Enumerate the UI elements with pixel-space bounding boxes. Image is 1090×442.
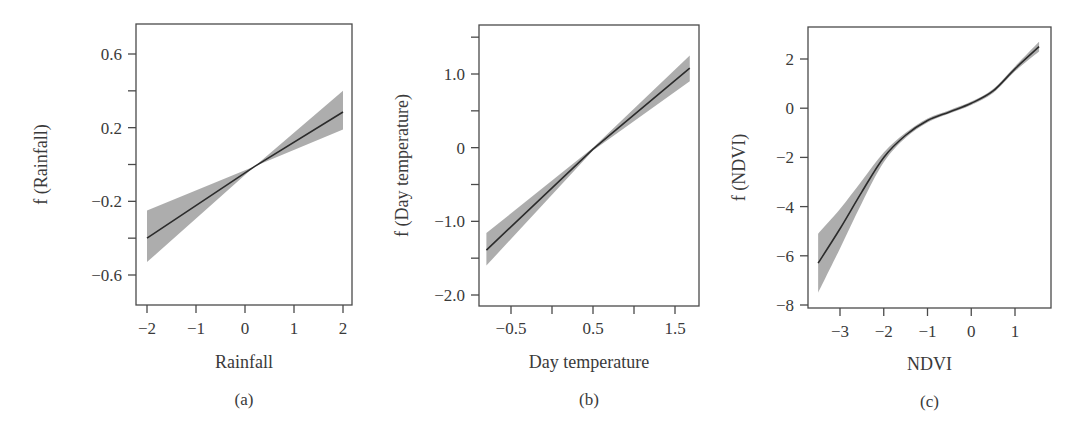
- panel-day-temperature: −0.50.51.5−2.0−1.001.0Day temperaturef (…: [392, 25, 699, 409]
- y-tick-label: −2.0: [434, 286, 465, 305]
- y-tick-label: 2: [786, 50, 795, 69]
- plot-frame: [479, 25, 699, 306]
- y-axis-label: f (Day temperature): [392, 94, 413, 237]
- y-tick-label: −1.0: [434, 212, 465, 231]
- panel-caption: (b): [579, 390, 599, 409]
- x-tick-label: 2: [339, 319, 348, 338]
- confidence-band: [147, 91, 343, 262]
- x-axis-label: NDVI: [907, 354, 952, 374]
- y-tick-label: 0: [457, 139, 466, 158]
- y-tick-label: 0: [786, 99, 795, 118]
- y-axis-label: f (NDVI): [729, 134, 750, 201]
- confidence-band: [486, 56, 689, 266]
- y-tick-label: −0.2: [91, 192, 122, 211]
- plot-frame: [136, 24, 352, 305]
- x-tick-label: −2: [138, 319, 156, 338]
- x-tick-label: 1: [1011, 322, 1020, 341]
- y-tick-label: −0.6: [91, 266, 122, 285]
- figure: −2−1012−0.6−0.20.20.6Rainfallf (Rainfall…: [0, 0, 1090, 442]
- x-tick-label: −1: [918, 322, 936, 341]
- x-tick-label: 1.5: [664, 319, 685, 338]
- x-tick-label: −2: [875, 322, 893, 341]
- fitted-curve: [818, 47, 1039, 263]
- x-tick-label: −0.5: [496, 319, 527, 338]
- panel-ndvi: −3−2−101−8−6−4−202NDVIf (NDVI)(c): [729, 27, 1051, 411]
- x-axis-label: Day temperature: [529, 352, 649, 372]
- fitted-curve: [147, 112, 343, 238]
- x-tick-label: 0.5: [582, 319, 603, 338]
- x-tick-label: 0: [967, 322, 976, 341]
- y-tick-label: −8: [776, 296, 794, 315]
- panel-caption: (c): [920, 392, 939, 411]
- y-tick-label: −2: [776, 148, 794, 167]
- y-tick-label: −4: [776, 198, 795, 217]
- panel-rainfall: −2−1012−0.6−0.20.20.6Rainfallf (Rainfall…: [31, 24, 352, 409]
- y-tick-label: 0.6: [101, 45, 122, 64]
- y-tick-label: 0.2: [101, 119, 122, 138]
- y-tick-label: 1.0: [444, 65, 465, 84]
- x-tick-label: 0: [241, 319, 250, 338]
- x-tick-label: 1: [290, 319, 299, 338]
- x-axis-label: Rainfall: [215, 352, 273, 372]
- x-tick-label: −1: [187, 319, 205, 338]
- x-tick-label: −3: [831, 322, 849, 341]
- y-tick-label: −6: [776, 247, 794, 266]
- y-axis-label: f (Rainfall): [31, 124, 52, 204]
- panel-caption: (a): [235, 390, 254, 409]
